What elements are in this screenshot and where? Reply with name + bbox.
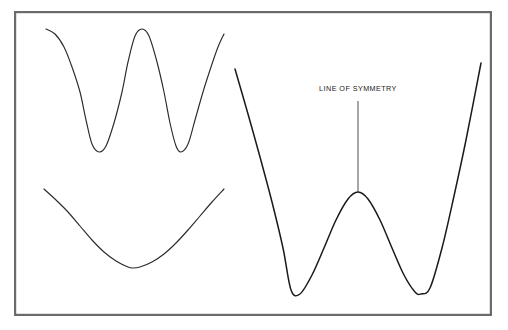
curves-figure-svg: LINE OF SYMMETRY xyxy=(0,0,508,330)
figure-root: LINE OF SYMMETRY xyxy=(0,0,508,330)
figure-border xyxy=(15,12,491,315)
line-of-symmetry-label: LINE OF SYMMETRY xyxy=(319,84,397,93)
